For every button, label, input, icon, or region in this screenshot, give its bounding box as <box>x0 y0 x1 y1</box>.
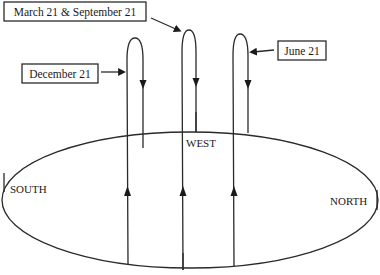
march-arrow <box>151 18 178 30</box>
june-arrow <box>253 50 274 52</box>
south-label: SOUTH <box>10 183 47 195</box>
equinox-path <box>180 30 200 270</box>
svg-text:March 21 & September 21: March 21 & September 21 <box>14 6 137 19</box>
horizon-ellipse <box>2 132 378 268</box>
west-label: WEST <box>186 137 216 149</box>
svg-text:December 21: December 21 <box>29 68 91 80</box>
sun-path-diagram: March 21 & September 21 December 21 June… <box>0 0 380 275</box>
june-label: June 21 <box>278 41 326 60</box>
december-label: December 21 <box>22 64 98 83</box>
north-label: NORTH <box>330 195 367 207</box>
june-path <box>231 34 252 266</box>
march-september-label: March 21 & September 21 <box>4 2 146 21</box>
december-path <box>124 38 147 264</box>
svg-text:June 21: June 21 <box>284 45 320 57</box>
